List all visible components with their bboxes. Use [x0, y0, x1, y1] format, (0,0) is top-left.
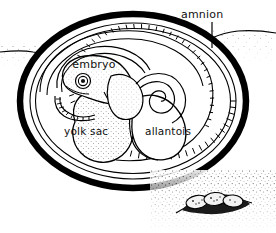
label-amnion: amnion — [181, 8, 223, 21]
label-embryo: embryo — [72, 58, 115, 71]
embryo-eye — [76, 74, 91, 89]
nest-of-eggs — [150, 170, 276, 233]
label-yolk-sac: yolk sac — [64, 125, 108, 137]
figure-root: amnion embryo yolk sac allantois — [0, 0, 276, 233]
amniote-egg-diagram: amnion embryo yolk sac allantois — [0, 0, 276, 233]
label-allantois: allantois — [145, 125, 191, 137]
